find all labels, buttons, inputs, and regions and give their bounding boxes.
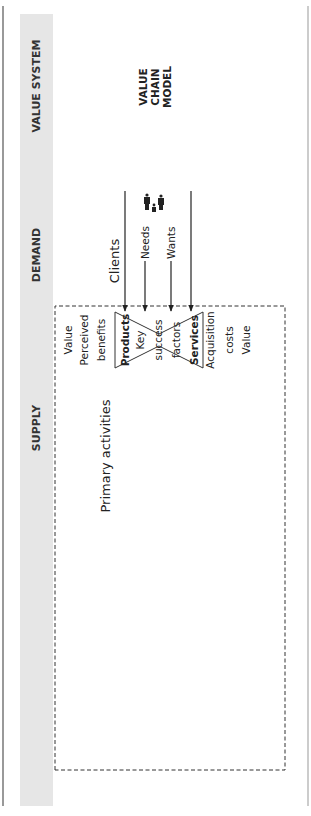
svg-text:costs: costs — [223, 326, 235, 353]
primary-activities-title: Primary activities — [98, 399, 113, 512]
family-people-icon — [144, 193, 164, 212]
key-label: Key — [134, 330, 146, 349]
products-label: Products — [119, 314, 131, 367]
needs-label: Needs — [139, 226, 151, 259]
value-cost-labels: Acquisition costs Value — [204, 311, 252, 369]
svg-text:CHAIN: CHAIN — [149, 68, 161, 105]
value-perception-labels: Value Perceived benefits — [62, 315, 107, 366]
diagram-title: VALUE CHAIN MODEL — [137, 66, 173, 108]
factors-label: factors — [170, 322, 182, 358]
svg-text:Value: Value — [240, 326, 252, 355]
value-chain-diagram: SUPPLY DEMAND VALUE SYSTEM VALUE CHAIN M… — [0, 0, 311, 816]
svg-text:benefits: benefits — [95, 319, 107, 361]
value-chain-box — [55, 306, 285, 770]
success-label: success — [152, 319, 164, 360]
services-label: Services — [188, 315, 200, 365]
band-label-supply: SUPPLY — [30, 404, 43, 451]
svg-text:MODEL: MODEL — [161, 66, 173, 108]
svg-text:Acquisition: Acquisition — [204, 311, 216, 369]
svg-text:Perceived: Perceived — [78, 315, 90, 366]
svg-text:Value: Value — [62, 326, 74, 355]
band-label-demand: DEMAND — [30, 228, 43, 282]
clients-label: Clients — [107, 239, 122, 284]
svg-text:VALUE: VALUE — [137, 68, 149, 106]
band-label-value-system: VALUE SYSTEM — [30, 40, 43, 133]
wants-label: Wants — [165, 227, 177, 259]
